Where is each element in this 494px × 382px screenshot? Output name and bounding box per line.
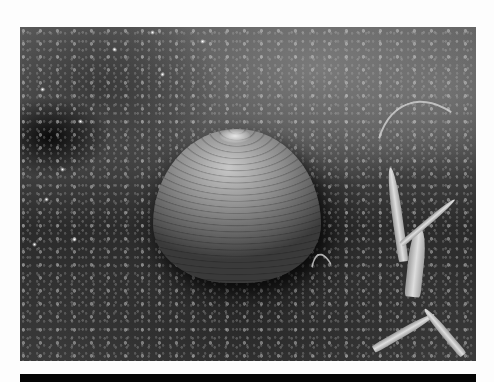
clam-photograph bbox=[20, 27, 476, 361]
clam-shell-highlight bbox=[220, 129, 250, 143]
bottom-black-bar bbox=[20, 374, 476, 382]
